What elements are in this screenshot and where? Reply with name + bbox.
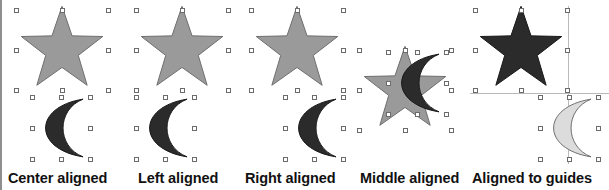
alignment-examples-figure: Center alignedLeft alignedRight alignedM… xyxy=(0,0,609,190)
star-path xyxy=(480,6,561,85)
horizontal-guide-line[interactable] xyxy=(470,93,609,94)
star-path xyxy=(21,6,102,85)
moon-path xyxy=(150,99,187,157)
moon-shape[interactable] xyxy=(32,97,90,159)
star-path xyxy=(141,6,222,85)
caption-right-aligned: Right aligned xyxy=(245,170,336,186)
moon-shape[interactable] xyxy=(388,52,446,114)
star-shape[interactable] xyxy=(136,10,228,90)
star-shape[interactable] xyxy=(16,10,108,90)
panel-middle-aligned xyxy=(350,0,458,190)
panel-right-aligned xyxy=(238,0,350,190)
caption-center-aligned: Center aligned xyxy=(8,170,107,186)
caption-aligned-to-guides: Aligned to guides xyxy=(472,170,592,186)
moon-shape[interactable] xyxy=(285,97,343,159)
star-shape[interactable] xyxy=(475,10,567,90)
star-path xyxy=(256,6,337,85)
canvas-right-aligned[interactable] xyxy=(238,0,350,166)
moon-shape[interactable] xyxy=(540,97,598,159)
panel-aligned-to-guides xyxy=(458,0,609,190)
moon-path xyxy=(46,99,83,157)
canvas-middle-aligned[interactable] xyxy=(350,0,458,166)
moon-path xyxy=(402,54,439,112)
moon-shape[interactable] xyxy=(136,97,194,159)
caption-middle-aligned: Middle aligned xyxy=(360,170,459,186)
canvas-left-aligned[interactable] xyxy=(128,0,238,166)
canvas-aligned-to-guides[interactable] xyxy=(458,0,609,166)
caption-left-aligned: Left aligned xyxy=(138,170,218,186)
moon-path xyxy=(554,99,591,157)
canvas-center-aligned[interactable] xyxy=(0,0,128,166)
panel-left-aligned xyxy=(128,0,238,190)
panel-center-aligned xyxy=(0,0,128,190)
moon-path xyxy=(299,99,336,157)
star-shape[interactable] xyxy=(251,10,343,90)
